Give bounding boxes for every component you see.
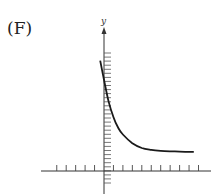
function-curve	[100, 61, 194, 152]
x-axis-ticks	[57, 165, 199, 171]
y-axis	[102, 27, 112, 194]
arrow-up-icon	[102, 27, 107, 34]
y-axis-ticks	[104, 53, 111, 183]
x-axis	[41, 165, 211, 171]
y-axis-label: y	[100, 16, 107, 26]
chart-plot-area: y	[0, 0, 211, 194]
